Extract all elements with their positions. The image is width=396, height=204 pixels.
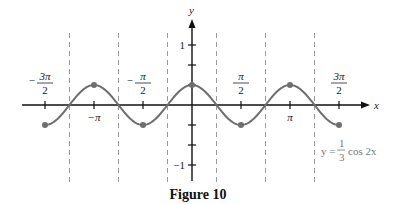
figure-caption: Figure 10 xyxy=(0,187,396,203)
curve-point xyxy=(42,122,48,128)
y-tick-label: 1 xyxy=(180,39,186,51)
x-tick-numerator: 3π xyxy=(39,70,52,82)
x-tick-denominator: 2 xyxy=(336,84,342,96)
curve-point xyxy=(140,122,146,128)
x-tick-label: π xyxy=(287,111,293,123)
x-axis-label: x xyxy=(373,99,379,111)
function-annotation: y = 1 3 cos 2x xyxy=(321,137,377,163)
svg-text:3: 3 xyxy=(339,151,345,163)
x-tick-sign: − xyxy=(127,74,133,86)
x-tick-sign: − xyxy=(29,74,35,86)
y-tick-label: −1 xyxy=(173,159,185,171)
svg-text:1: 1 xyxy=(339,137,345,149)
curve-point xyxy=(238,122,244,128)
svg-text:cos 2x: cos 2x xyxy=(348,145,377,157)
x-tick-numerator: π xyxy=(140,70,146,82)
curve-point xyxy=(189,82,195,88)
x-tick-denominator: 2 xyxy=(42,84,48,96)
x-axis-arrow-icon xyxy=(361,102,370,109)
cosine-graph: x y −3π2−π−π2π2π3π2 1−1 y = 1 3 cos 2x xyxy=(0,0,396,204)
svg-text:y =: y = xyxy=(321,145,335,157)
curve-point xyxy=(91,82,97,88)
curve-point xyxy=(336,122,342,128)
y-axis-arrow-icon xyxy=(189,19,196,28)
y-axis-label: y xyxy=(188,4,194,16)
x-tick-denominator: 2 xyxy=(140,84,146,96)
x-tick-label: −π xyxy=(88,111,101,123)
x-tick-numerator: π xyxy=(238,70,244,82)
x-tick-denominator: 2 xyxy=(238,84,244,96)
curve-point xyxy=(287,82,293,88)
x-tick-numerator: 3π xyxy=(332,70,345,82)
